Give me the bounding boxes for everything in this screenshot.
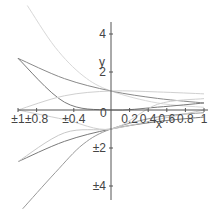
curve-5 [23, 113, 204, 209]
x-tick-label: ±0.4 [62, 112, 86, 126]
y-tick-label: 4 [99, 27, 106, 41]
y-axis-label: y [99, 55, 105, 69]
x-axis-label: x [156, 117, 162, 131]
x-tick-label: 1 [201, 112, 208, 126]
chart-container: ±1±0.8±0.40.20.40.60.81 42±2±4 x y 0 [0, 0, 217, 218]
x-tick-label: 0.8 [177, 112, 194, 126]
x-tick-label: ±1 [11, 112, 25, 126]
y-tick-label: ±4 [93, 179, 107, 193]
x-tick-labels: ±1±0.8±0.40.20.40.60.81 [11, 108, 207, 126]
x-tick-label: ±0.8 [25, 112, 49, 126]
origin-label: 0 [100, 106, 107, 120]
x-tick-label: 0.4 [140, 112, 157, 126]
y-tick-label: ±2 [93, 141, 107, 155]
plot-area: ±1±0.8±0.40.20.40.60.81 42±2±4 x y 0 [0, 0, 217, 218]
x-tick-label: 0.2 [121, 112, 138, 126]
